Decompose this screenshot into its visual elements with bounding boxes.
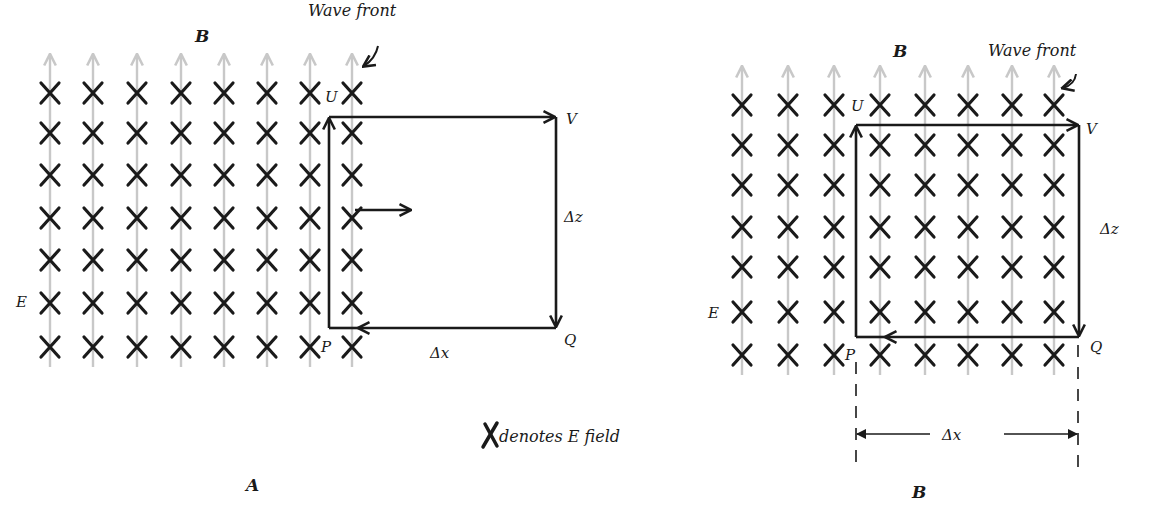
corner-q-label: Q bbox=[564, 331, 576, 349]
integration-loop bbox=[329, 117, 556, 328]
corner-q-label: Q bbox=[1090, 338, 1102, 356]
corner-u-label: U bbox=[851, 97, 865, 115]
panel-b-caption: B bbox=[911, 482, 926, 502]
corner-v-label: V bbox=[566, 110, 579, 128]
panel-a-caption: A bbox=[244, 475, 259, 495]
wavefront-label: Wave front bbox=[988, 41, 1077, 60]
e-field-crosses bbox=[733, 95, 1063, 365]
corner-u-label: U bbox=[325, 88, 339, 106]
legend: denotes E field bbox=[483, 423, 620, 447]
e-field-label: E bbox=[15, 293, 27, 311]
b-field-label: B bbox=[194, 26, 209, 46]
delta-x-label: Δx bbox=[429, 344, 450, 362]
panel-a: B Wave front E U V P Q Δz Δx A bbox=[15, 1, 583, 495]
b-field-lines bbox=[50, 55, 352, 367]
e-field-crosses bbox=[41, 83, 361, 357]
delta-z-label: Δz bbox=[1099, 220, 1119, 238]
b-field-label: B bbox=[892, 41, 907, 61]
wavefront-label: Wave front bbox=[308, 1, 397, 20]
e-field-cross-icon bbox=[483, 423, 497, 447]
wavefront-pointer-icon bbox=[1063, 74, 1076, 88]
delta-x-label: Δx bbox=[941, 426, 962, 444]
corner-p-label: P bbox=[844, 346, 856, 364]
panel-b: B Wave front E U V P Q Δz Δx B bbox=[707, 41, 1119, 502]
wavefront-pointer-icon bbox=[364, 46, 378, 66]
legend-text: denotes E field bbox=[499, 427, 620, 446]
e-field-label: E bbox=[707, 304, 719, 322]
corner-v-label: V bbox=[1086, 120, 1099, 138]
corner-p-label: P bbox=[320, 338, 332, 356]
delta-z-label: Δz bbox=[563, 208, 583, 226]
diagram-canvas: B Wave front E U V P Q Δz Δx A denotes E… bbox=[0, 0, 1156, 516]
